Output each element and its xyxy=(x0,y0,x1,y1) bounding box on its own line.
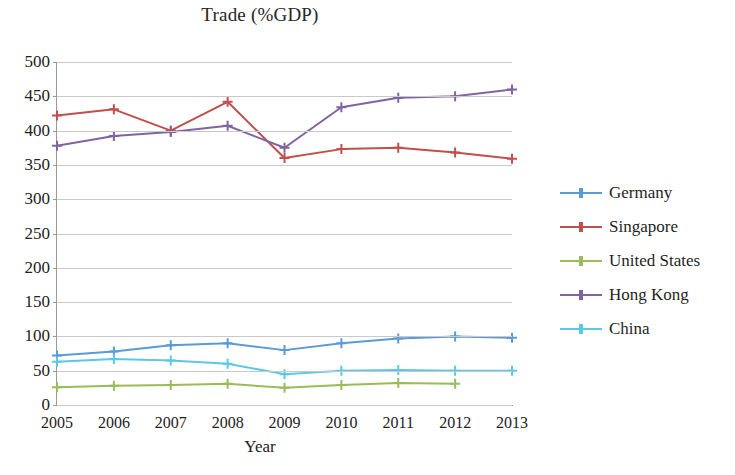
legend-label: China xyxy=(609,319,650,339)
y-axis-tick-label: 200 xyxy=(4,259,50,276)
data-point-marker xyxy=(336,338,346,348)
series-line xyxy=(57,89,512,147)
legend-color-swatch xyxy=(560,220,602,234)
y-axis-tick xyxy=(53,302,57,303)
legend-item-hong-kong[interactable]: Hong Kong xyxy=(560,278,735,312)
gridline xyxy=(57,336,512,337)
data-point-marker xyxy=(52,111,62,121)
trade-gdp-line-chart: Trade (%GDP) 050100150200250300350400450… xyxy=(0,0,735,475)
y-axis-tick-label: 100 xyxy=(4,327,50,344)
data-point-marker xyxy=(507,333,517,343)
series-china xyxy=(52,354,517,379)
y-axis-tick-label: 500 xyxy=(4,53,50,70)
x-axis-tick-label: 2011 xyxy=(368,413,428,433)
x-axis-tick-label: 2013 xyxy=(482,413,542,433)
y-axis-tick xyxy=(53,96,57,97)
y-axis-tick-label: 50 xyxy=(4,362,50,379)
y-axis-tick-label: 250 xyxy=(4,225,50,242)
legend-color-swatch xyxy=(560,288,602,302)
data-point-marker xyxy=(450,379,460,389)
series-united-states xyxy=(52,378,460,393)
data-point-marker xyxy=(393,93,403,103)
data-point-marker xyxy=(52,357,62,367)
gridline xyxy=(57,131,512,132)
data-point-marker xyxy=(166,380,176,390)
data-point-marker xyxy=(223,379,233,389)
series-hong-kong xyxy=(52,84,517,152)
gridline xyxy=(57,405,512,406)
y-axis-tick xyxy=(53,371,57,372)
data-point-marker xyxy=(52,382,62,392)
gridline xyxy=(57,234,512,235)
gridline xyxy=(57,62,512,63)
chart-title: Trade (%GDP) xyxy=(0,4,520,26)
y-axis-tick xyxy=(53,199,57,200)
legend-item-germany[interactable]: Germany xyxy=(560,176,735,210)
data-point-marker xyxy=(336,144,346,154)
y-axis-tick-label: 450 xyxy=(4,87,50,104)
gridline xyxy=(57,268,512,269)
x-axis-tick-label: 2005 xyxy=(27,413,87,433)
x-axis-tick-label: 2008 xyxy=(198,413,258,433)
y-axis-tick xyxy=(53,165,57,166)
data-point-marker xyxy=(450,148,460,158)
data-point-marker xyxy=(109,131,119,141)
y-axis-tick-label: 150 xyxy=(4,293,50,310)
gridline xyxy=(57,96,512,97)
y-axis-tick xyxy=(53,336,57,337)
y-axis-tick xyxy=(53,62,57,63)
data-point-marker xyxy=(109,354,119,364)
data-point-marker xyxy=(393,333,403,343)
data-point-marker xyxy=(166,355,176,365)
x-axis-tick-label: 2007 xyxy=(141,413,201,433)
legend-label: United States xyxy=(609,251,700,271)
legend-item-united-states[interactable]: United States xyxy=(560,244,735,278)
gridline xyxy=(57,199,512,200)
y-axis-tick-labels: 050100150200250300350400450500 xyxy=(0,62,50,406)
y-axis-tick xyxy=(53,131,57,132)
y-axis-tick-label: 300 xyxy=(4,190,50,207)
data-point-marker xyxy=(166,340,176,350)
y-axis-tick-label: 400 xyxy=(4,122,50,139)
y-axis-tick-label: 350 xyxy=(4,156,50,173)
legend-color-swatch xyxy=(560,186,602,200)
gridline xyxy=(57,165,512,166)
data-point-marker xyxy=(223,338,233,348)
data-point-marker xyxy=(109,104,119,114)
legend-label: Hong Kong xyxy=(609,285,689,305)
legend-item-china[interactable]: China xyxy=(560,312,735,346)
x-axis-tick-label: 2010 xyxy=(311,413,371,433)
data-point-marker xyxy=(52,141,62,151)
legend-color-swatch xyxy=(560,254,602,268)
data-point-marker xyxy=(223,121,233,131)
y-axis-tick xyxy=(53,234,57,235)
y-axis-tick-label: 0 xyxy=(4,396,50,413)
legend-item-singapore[interactable]: Singapore xyxy=(560,210,735,244)
data-point-marker xyxy=(393,378,403,388)
legend-label: Singapore xyxy=(609,217,678,237)
data-point-marker xyxy=(336,380,346,390)
y-axis-tick xyxy=(53,405,57,406)
x-axis-tick-labels: 200520062007200820092010201120122013 xyxy=(0,413,570,435)
data-point-marker xyxy=(507,154,517,164)
y-axis-tick xyxy=(53,268,57,269)
legend-label: Germany xyxy=(609,183,672,203)
gridline xyxy=(57,371,512,372)
data-point-marker xyxy=(280,345,290,355)
data-point-marker xyxy=(280,383,290,393)
data-point-marker xyxy=(223,359,233,369)
gridline xyxy=(57,302,512,303)
x-axis-tick-label: 2006 xyxy=(84,413,144,433)
x-axis-tick-label: 2009 xyxy=(255,413,315,433)
chart-legend: GermanySingaporeUnited StatesHong KongCh… xyxy=(560,176,735,346)
data-point-marker xyxy=(393,143,403,153)
x-axis-tick-label: 2012 xyxy=(425,413,485,433)
data-point-marker xyxy=(507,84,517,94)
data-point-marker xyxy=(109,381,119,391)
x-axis-title: Year xyxy=(0,437,520,457)
legend-color-swatch xyxy=(560,322,602,336)
plot-area xyxy=(57,62,512,405)
